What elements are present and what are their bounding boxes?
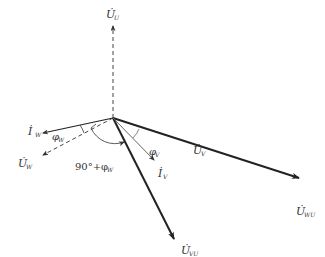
angle-arc-90-phi-w-start — [91, 124, 96, 128]
label-phi-v-sub: V — [155, 151, 160, 158]
label-u-w: U̇ W — [18, 157, 33, 170]
label-u-w-sub: W — [26, 163, 33, 170]
label-i-w-main: İ — [27, 124, 33, 138]
label-i-v-sub: V — [163, 173, 168, 180]
label-u-vu: U̇ VU — [181, 244, 199, 257]
label-u-wu: U̇ WU — [296, 205, 316, 218]
label-u-v-sub: V — [201, 150, 206, 157]
label-90-phi-w-sub: W — [107, 166, 114, 173]
phasor-diagram: U̇ U İ W φ W U̇ W 90°+φ W φ V İ V U̇ V U… — [0, 0, 325, 257]
label-u-u-sub: U — [114, 14, 120, 21]
label-90-phi-w: 90°+φ W — [75, 161, 114, 173]
label-i-w-sub: W — [35, 131, 42, 138]
label-u-u: U̇ U — [106, 8, 120, 21]
angle-arc-phi-w — [80, 125, 84, 133]
label-u-wu-sub: WU — [304, 211, 316, 218]
angle-arc-phi-v — [133, 129, 139, 138]
label-i-w: İ W — [27, 124, 42, 138]
label-phi-w-sub: W — [58, 136, 65, 143]
label-90-phi-w-main: 90°+φ — [75, 161, 108, 172]
label-phi-v: φ V — [149, 146, 160, 158]
label-u-vu-sub: VU — [189, 250, 199, 257]
label-i-v: İ V — [157, 166, 168, 180]
label-phi-w: φ W — [52, 131, 65, 143]
phasor-u-v — [113, 118, 299, 178]
label-u-v: U̇ V — [193, 144, 206, 157]
